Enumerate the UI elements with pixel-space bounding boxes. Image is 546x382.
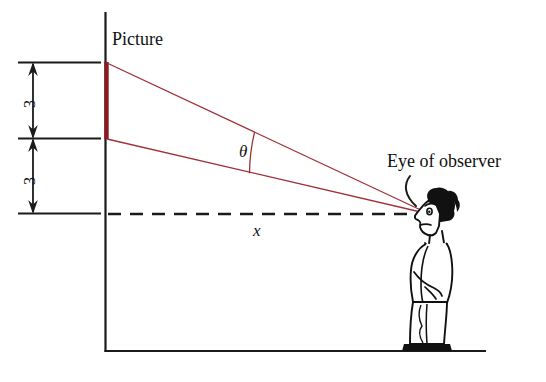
diagram-svg <box>0 0 546 382</box>
distance-x-label: x <box>253 222 261 239</box>
figure-canvas: Picture Eye of observer θ x 3 3 <box>0 0 546 382</box>
dimension-label-upper: 3 <box>22 100 38 108</box>
theta-angle-label: θ <box>239 143 247 160</box>
observer-figure <box>402 187 460 351</box>
dimension-label-lower: 3 <box>22 177 38 185</box>
sight-line-top <box>107 63 425 212</box>
theta-arc <box>250 132 255 173</box>
eye-leader-line <box>406 176 416 206</box>
sight-line-bottom <box>107 139 425 213</box>
eye-of-observer-label: Eye of observer <box>387 152 501 170</box>
picture-label: Picture <box>112 30 163 48</box>
